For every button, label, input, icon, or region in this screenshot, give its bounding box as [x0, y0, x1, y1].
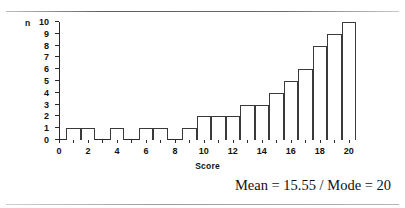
y-axis-line: [59, 22, 60, 140]
x-axis-tick: [146, 140, 147, 143]
x-axis-tick: [233, 140, 234, 143]
x-axis-tick: [276, 140, 277, 143]
histogram-bar: [269, 93, 283, 140]
x-axis-tick: [291, 140, 292, 143]
y-axis-tick-label: 4: [44, 88, 49, 97]
x-axis-tick: [262, 140, 263, 143]
histogram-bar: [197, 116, 211, 140]
y-axis-tick-label: 2: [44, 112, 49, 121]
x-axis-tick: [334, 140, 335, 143]
x-axis-tick: [160, 140, 161, 143]
y-axis-tick: [55, 68, 59, 69]
figure-page: n Score 01234567891002468101214161820 Me…: [0, 0, 405, 208]
y-axis-tick: [55, 80, 59, 81]
histogram-bar: [240, 105, 254, 140]
y-axis-title: n: [25, 18, 30, 28]
histogram-bar: [284, 81, 298, 140]
y-axis-tick: [55, 45, 59, 46]
y-axis-tick: [55, 115, 59, 116]
page-rule-bottom: [6, 204, 399, 205]
y-axis-tick-label: 5: [44, 77, 49, 86]
x-axis-tick: [349, 140, 350, 143]
y-axis-tick-label: 6: [44, 65, 49, 74]
x-axis-tick-label: 14: [257, 146, 267, 156]
x-axis-tick: [88, 140, 89, 143]
x-axis-tick-label: 18: [315, 146, 325, 156]
histogram-bar: [66, 128, 80, 140]
y-axis-tick: [55, 21, 59, 22]
histogram-bar: [226, 116, 240, 140]
x-axis-tick: [189, 140, 190, 143]
x-axis-tick: [117, 140, 118, 143]
y-axis-tick: [55, 127, 59, 128]
x-axis-tick: [131, 140, 132, 143]
y-axis-tick-label: 9: [44, 29, 49, 38]
x-axis-tick: [204, 140, 205, 143]
y-axis-tick: [55, 56, 59, 57]
histogram-bar: [153, 128, 167, 140]
histogram-bar: [81, 128, 95, 140]
x-axis-tick: [320, 140, 321, 143]
x-axis-tick: [175, 140, 176, 143]
x-axis-tick-label: 6: [143, 146, 148, 156]
y-axis-tick: [55, 104, 59, 105]
histogram-bar: [327, 34, 341, 140]
histogram-plot-area: Score 01234567891002468101214161820: [59, 22, 356, 140]
y-axis-tick-label: 0: [44, 136, 49, 145]
x-axis-tick-label: 12: [228, 146, 238, 156]
y-axis-tick-label: 8: [44, 41, 49, 50]
histogram-bar: [313, 46, 327, 140]
x-axis-tick-label: 10: [199, 146, 209, 156]
x-axis-tick-label: 4: [114, 146, 119, 156]
x-axis-title: Score: [59, 161, 356, 171]
y-axis-tick-label: 1: [44, 124, 49, 133]
histogram-bar: [298, 69, 312, 140]
x-axis-tick-label: 16: [286, 146, 296, 156]
histogram-bar: [255, 105, 269, 140]
x-axis-tick-label: 0: [56, 146, 61, 156]
x-axis-tick: [73, 140, 74, 143]
histogram-bar: [182, 128, 196, 140]
y-axis-tick-label: 10: [39, 18, 49, 27]
histogram-bar: [342, 22, 356, 140]
y-axis-tick-label: 3: [44, 100, 49, 109]
histogram-bar: [211, 116, 225, 140]
histogram-bar: [139, 128, 153, 140]
x-axis-tick-label: 20: [344, 146, 354, 156]
y-axis-tick-label: 7: [44, 53, 49, 62]
x-axis-tick: [305, 140, 306, 143]
y-axis-tick: [55, 33, 59, 34]
histogram-bar: [110, 128, 124, 140]
stats-caption: Mean = 15.55 / Mode = 20: [235, 177, 391, 194]
y-axis-tick: [55, 92, 59, 93]
x-axis-tick: [218, 140, 219, 143]
x-axis-tick: [102, 140, 103, 143]
x-axis-tick: [247, 140, 248, 143]
page-rule-top: [6, 11, 399, 12]
x-axis-tick: [59, 140, 60, 143]
x-axis-tick-label: 8: [172, 146, 177, 156]
x-axis-tick-label: 2: [85, 146, 90, 156]
